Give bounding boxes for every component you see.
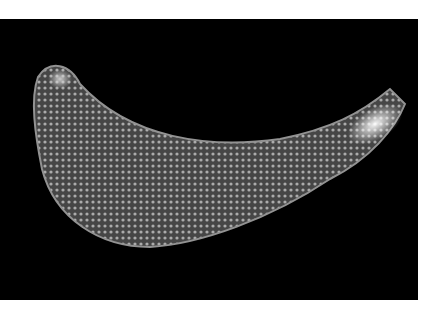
sea-cucumber-body bbox=[34, 66, 405, 247]
photograph bbox=[0, 19, 418, 300]
sea-cucumber-illustration bbox=[0, 19, 418, 300]
